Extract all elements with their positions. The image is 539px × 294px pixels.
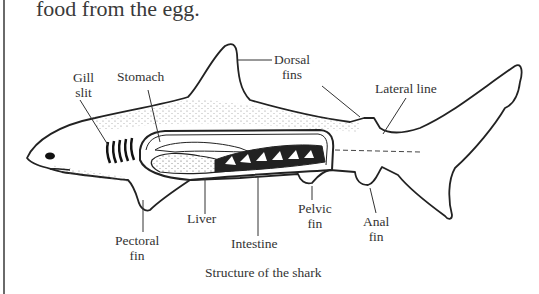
label-anal-fin: Anal fin	[363, 214, 389, 244]
label-pectoral-fin: Pectoral fin	[115, 233, 159, 263]
label-gill-slit-line1: Gill	[73, 70, 94, 85]
leader-lines	[80, 60, 406, 236]
label-pelvic-fin: Pelvic fin	[298, 201, 332, 231]
label-pectoral-fin-line1: Pectoral	[115, 233, 159, 248]
label-intestine: Intestine	[231, 236, 278, 251]
label-dorsal-fins-line2: fins	[274, 67, 310, 82]
gill-slits	[107, 138, 134, 163]
label-stomach: Stomach	[117, 69, 164, 84]
diagram-caption: Structure of the shark	[205, 265, 322, 281]
label-gill-slit: Gill slit	[73, 70, 94, 100]
label-gill-slit-line2: slit	[73, 85, 94, 100]
label-dorsal-fins: Dorsal fins	[274, 52, 310, 82]
label-lateral-line: Lateral line	[375, 81, 437, 96]
label-pelvic-fin-line1: Pelvic	[298, 201, 332, 216]
label-pectoral-fin-line2: fin	[115, 248, 159, 263]
label-pelvic-fin-line2: fin	[298, 216, 332, 231]
label-dorsal-fins-line1: Dorsal	[274, 52, 310, 67]
shark-eye	[45, 153, 55, 160]
label-anal-fin-line1: Anal	[363, 214, 389, 229]
label-anal-fin-line2: fin	[363, 229, 389, 244]
stomach-shape	[155, 142, 250, 152]
label-liver: Liver	[187, 211, 216, 226]
